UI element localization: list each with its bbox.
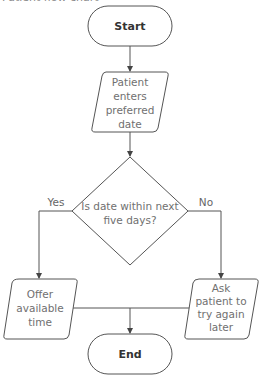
connector-yes [39,211,72,278]
end-node: End [88,334,172,374]
input-node: Patient enters preferred date [92,72,168,132]
start-node: Start [88,6,172,46]
ask-line-1: Ask [212,282,232,294]
connector-merge-to-end [72,308,190,333]
ask-line-4: later [209,321,234,333]
decision-line-1: Is date within next [81,200,178,212]
input-line-3: preferred [106,104,155,116]
offer-line-1: Offer [27,288,54,300]
input-line-2: enters [113,90,146,102]
ask-line-3: try again [197,308,244,320]
flowchart-canvas: Start Patient enters preferred date Is d… [0,0,265,380]
ask-line-2: patient to [195,295,246,307]
start-label: Start [114,20,145,33]
connector-no [188,211,221,278]
offer-line-2: available [16,302,63,314]
ask-node: Ask patient to try again later [185,279,258,339]
yes-label: Yes [47,196,65,208]
input-line-1: Patient [112,76,149,88]
offer-line-3: time [28,316,52,328]
end-label: End [118,348,141,361]
no-label: No [199,196,213,208]
decision-line-2: five days? [104,214,157,226]
decision-node: Is date within next five days? [72,157,188,265]
input-line-4: date [118,118,142,130]
offer-node: Offer available time [4,279,77,339]
